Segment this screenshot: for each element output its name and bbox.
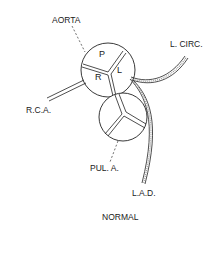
pulmonary-valve xyxy=(99,93,147,141)
label-left-anterior-descending: L.A.D. xyxy=(132,188,156,198)
cusp-label-left: L xyxy=(117,65,122,75)
cusp-label-right: R xyxy=(95,72,102,82)
aortic-valve xyxy=(81,43,135,97)
label-right-coronary: R.C.A. xyxy=(26,105,51,115)
pulmonary-leader-line xyxy=(110,141,118,162)
aorta-leader-line xyxy=(72,26,85,52)
cusp-label-posterior: P xyxy=(99,49,105,59)
label-pulmonary-artery: PUL. A. xyxy=(90,163,119,173)
label-left-circumflex: L. CIRC. xyxy=(170,39,203,49)
right-coronary-artery xyxy=(47,80,86,101)
left-circumflex-artery xyxy=(131,56,188,83)
diagram-caption: NORMAL xyxy=(102,212,139,222)
coronary-anatomy-diagram: P R L AORTA L. CIRC. R.C.A. PUL. A. L.A.… xyxy=(0,0,222,257)
label-aorta: AORTA xyxy=(52,15,81,25)
